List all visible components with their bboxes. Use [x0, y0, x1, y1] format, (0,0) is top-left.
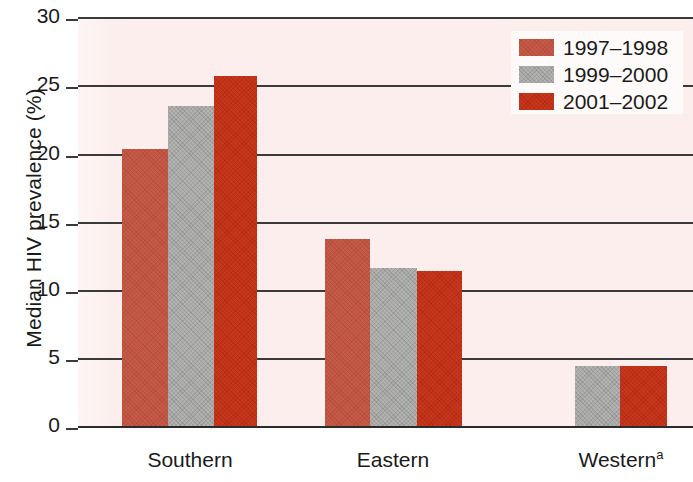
- bar-western-1999-2000: [575, 366, 620, 426]
- x-tick-footnote-western: a: [656, 447, 663, 462]
- bar-eastern-2001-2002: [417, 271, 462, 426]
- bar-southern-1999-2000: [168, 106, 214, 426]
- bar-western-2001-2002: [620, 366, 667, 426]
- bar-eastern-1997-1998: [325, 239, 370, 426]
- legend-swatch-icon-1997-1998: [519, 39, 554, 56]
- y-tickmark-20: [66, 156, 78, 158]
- legend-label-1997-1998: 1997–1998: [563, 36, 668, 60]
- gridline-30: [78, 17, 693, 19]
- x-axis-tick-labels: Southern Eastern Westerna: [0, 434, 693, 482]
- y-tick-label-10: 10: [16, 277, 60, 301]
- y-tickmark-5: [66, 360, 78, 362]
- y-tick-label-20: 20: [16, 141, 60, 165]
- legend-item-2001-2002: 2001–2002: [511, 89, 683, 114]
- bar-southern-2001-2002: [214, 76, 257, 426]
- y-tick-label-15: 15: [16, 209, 60, 233]
- legend-swatch-icon-2001-2002: [519, 93, 554, 110]
- x-tick-label-eastern: Eastern: [313, 448, 473, 472]
- x-tick-label-western: Westerna: [541, 448, 693, 472]
- bar-southern-1997-1998: [122, 149, 168, 426]
- x-tick-text-western: Western: [578, 448, 656, 471]
- y-tickmark-0: [66, 428, 78, 430]
- x-tick-text-eastern: Eastern: [357, 448, 429, 471]
- bar-chart-figure: Median HIV prevalence (%) 30 25 20 15 10…: [0, 0, 693, 482]
- x-axis-line: [78, 426, 693, 428]
- legend-item-1999-2000: 1999–2000: [511, 62, 683, 87]
- y-axis-tick-labels: 30 25 20 15 10 5 0: [0, 17, 60, 426]
- legend-item-1997-1998: 1997–1998: [511, 35, 683, 60]
- y-tick-label-25: 25: [16, 72, 60, 96]
- y-tickmark-30: [66, 19, 78, 21]
- y-tick-label-30: 30: [16, 4, 60, 28]
- y-tickmark-10: [66, 292, 78, 294]
- legend-label-2001-2002: 2001–2002: [563, 90, 668, 114]
- x-tick-text-southern: Southern: [147, 448, 232, 471]
- y-tickmark-25: [66, 87, 78, 89]
- y-tickmark-15: [66, 224, 78, 226]
- x-tick-label-southern: Southern: [110, 448, 270, 472]
- bar-eastern-1999-2000: [370, 268, 417, 426]
- legend: 1997–1998 1999–2000 2001–2002: [511, 31, 683, 114]
- legend-swatch-icon-1999-2000: [519, 66, 554, 83]
- y-tick-label-5: 5: [16, 345, 60, 369]
- legend-label-1999-2000: 1999–2000: [563, 63, 668, 87]
